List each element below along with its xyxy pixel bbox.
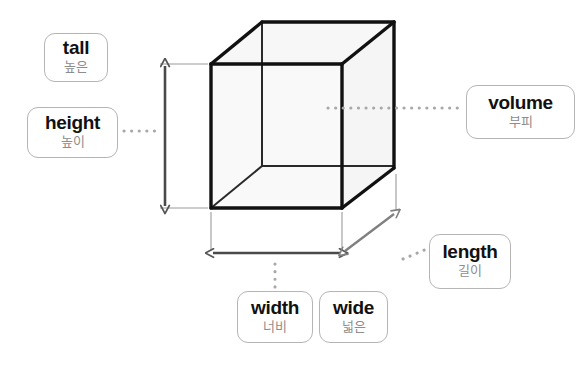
label-box-volume[interactable]: volume 부피 [466,85,575,139]
label-volume-en: volume [488,93,553,113]
label-length-ko: 길이 [458,264,482,279]
length-connector [403,249,427,259]
label-volume-ko: 부피 [509,115,533,130]
label-box-height[interactable]: height 높이 [27,107,118,158]
label-box-length[interactable]: length 길이 [429,234,511,289]
width-extension-lines [211,212,342,250]
length-dimension-arrow [345,214,394,251]
height-extension-lines [160,64,208,208]
label-length-en: length [442,242,497,262]
diagram-canvas: tall 높은 height 높이 volume 부피 length 길이 wi… [0,0,579,366]
label-wide-en: wide [333,298,374,318]
label-height-en: height [45,113,100,133]
label-box-wide[interactable]: wide 넓은 [319,291,388,343]
label-width-ko: 너비 [263,320,287,335]
label-wide-ko: 넓은 [342,320,366,335]
cube-shape [211,22,394,208]
label-width-en: width [251,298,299,318]
label-tall-en: tall [63,38,89,58]
label-box-width[interactable]: width 너비 [237,291,313,343]
label-box-tall[interactable]: tall 높은 [44,33,108,82]
label-tall-ko: 높은 [64,60,88,75]
cube-face-front [211,64,342,208]
label-height-ko: 높이 [61,135,85,150]
